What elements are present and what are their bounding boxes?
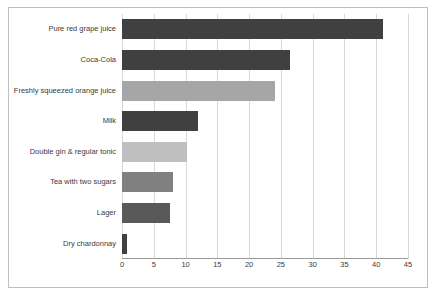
category-label: Lager [97,209,122,217]
x-tick-label: 25 [277,261,285,269]
gridline [408,14,409,259]
x-tick-label: 15 [213,261,221,269]
category-label: Milk [103,117,122,125]
chart-container: Pure red grape juiceCoca-ColaFreshly squ… [0,0,436,296]
x-tick-label: 0 [120,261,124,269]
x-tick-label: 45 [404,261,412,269]
x-tick-label: 10 [181,261,189,269]
x-tick-label: 35 [340,261,348,269]
x-axis-tick-labels: 051015202530354045 [122,14,408,279]
category-label: Freshly squeezed orange juice [14,87,122,95]
category-label: Dry chardonnay [63,240,122,248]
x-tick-label: 20 [245,261,253,269]
x-tick-label: 30 [308,261,316,269]
category-label: Tea with two sugars [50,179,122,187]
x-tick-label: 5 [152,261,156,269]
x-tick-label: 40 [372,261,380,269]
category-label: Pure red grape juice [48,26,122,34]
category-label: Double gin & regular tonic [30,148,122,156]
category-label: Coca-Cola [81,56,122,64]
